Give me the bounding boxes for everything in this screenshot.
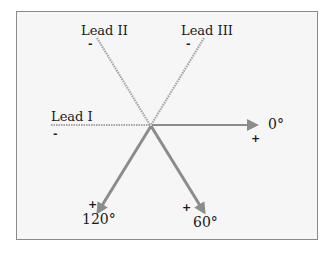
axis-120-positive-sign: + (88, 199, 97, 210)
lead-ii-negative-segment (97, 38, 150, 125)
lead-i-negative-sign: - (53, 128, 58, 139)
lead-ii-label: Lead II (81, 24, 128, 37)
angle-120-label: 120° (82, 212, 116, 226)
axis-0-positive-sign: + (251, 133, 260, 144)
angle-60-label: 60° (193, 215, 218, 229)
angle-0-label: 0° (268, 117, 284, 131)
lead-iii-label: Lead III (181, 24, 233, 37)
lead-i-label: Lead I (51, 110, 93, 123)
axis-120-arrow (98, 126, 151, 212)
lead-iii-negative-segment (151, 38, 204, 125)
axis-60-positive-sign: + (182, 202, 191, 213)
lead-iii-negative-sign: - (186, 38, 191, 49)
axis-60-arrow (151, 126, 204, 212)
lead-ii-negative-sign: - (88, 38, 93, 49)
